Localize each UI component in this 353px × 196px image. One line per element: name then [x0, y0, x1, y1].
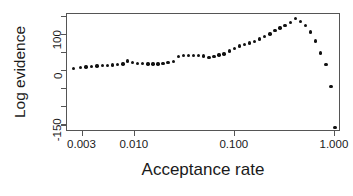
- y-axis-title: Log evidence: [9, 13, 31, 131]
- data-point: [319, 51, 322, 54]
- data-point: [222, 52, 225, 55]
- data-point: [304, 24, 307, 27]
- data-point: [289, 21, 292, 24]
- data-point: [263, 35, 266, 38]
- data-point: [131, 61, 134, 64]
- plot-area: [66, 13, 340, 131]
- data-point: [146, 62, 149, 65]
- data-point: [72, 67, 75, 70]
- data-point: [329, 85, 332, 88]
- data-point: [79, 66, 82, 69]
- data-point: [111, 63, 114, 66]
- y-axis-tick-label: 0: [52, 73, 64, 79]
- data-point: [238, 44, 241, 47]
- y-axis-title-text: Log evidence: [12, 26, 28, 118]
- data-point: [314, 39, 317, 42]
- scatter-series: [67, 14, 339, 130]
- data-point: [207, 56, 210, 59]
- data-point: [121, 62, 124, 65]
- data-point: [217, 53, 220, 56]
- data-point: [156, 62, 159, 65]
- data-point: [172, 60, 175, 63]
- data-point: [126, 59, 129, 62]
- x-axis-tick-label: 0.003: [67, 138, 96, 151]
- data-point: [192, 54, 195, 57]
- data-point: [101, 64, 104, 67]
- data-point: [248, 41, 251, 44]
- data-point: [106, 64, 109, 67]
- data-point: [233, 47, 236, 50]
- x-axis-tick-label: 0.010: [119, 138, 148, 151]
- data-point: [136, 62, 139, 65]
- data-point: [309, 30, 312, 33]
- data-point: [177, 55, 180, 58]
- data-point: [166, 61, 169, 64]
- data-point: [90, 65, 93, 68]
- data-point: [84, 65, 87, 68]
- x-axis-tick: [82, 131, 83, 136]
- x-axis-tick: [134, 131, 135, 136]
- data-point: [283, 24, 286, 27]
- data-point: [151, 62, 154, 65]
- data-point: [182, 54, 185, 57]
- data-point: [187, 54, 190, 57]
- data-point: [202, 54, 205, 57]
- data-point: [299, 20, 302, 23]
- data-point: [253, 40, 256, 43]
- data-point: [273, 29, 276, 32]
- data-point: [116, 63, 119, 66]
- data-point: [197, 54, 200, 57]
- data-point: [278, 26, 281, 29]
- x-axis-title: Acceptance rate: [66, 160, 340, 180]
- chart-figure: Log evidence 1000-150 0.0030.0100.1001.0…: [0, 0, 353, 196]
- data-point: [228, 49, 231, 52]
- data-point: [212, 55, 215, 58]
- data-point: [324, 63, 327, 66]
- data-point: [294, 17, 297, 20]
- data-point: [268, 32, 271, 35]
- data-point: [333, 126, 336, 129]
- x-axis-tick-label: 1.000: [320, 138, 349, 151]
- x-axis-tick: [234, 131, 235, 136]
- x-axis-tick-label: 0.100: [219, 138, 248, 151]
- data-point: [95, 64, 98, 67]
- data-point: [161, 62, 164, 65]
- data-point: [141, 62, 144, 65]
- data-point: [243, 43, 246, 46]
- y-axis-tick-label: -150: [52, 119, 64, 142]
- data-point: [258, 37, 261, 40]
- x-axis-tick: [334, 131, 335, 136]
